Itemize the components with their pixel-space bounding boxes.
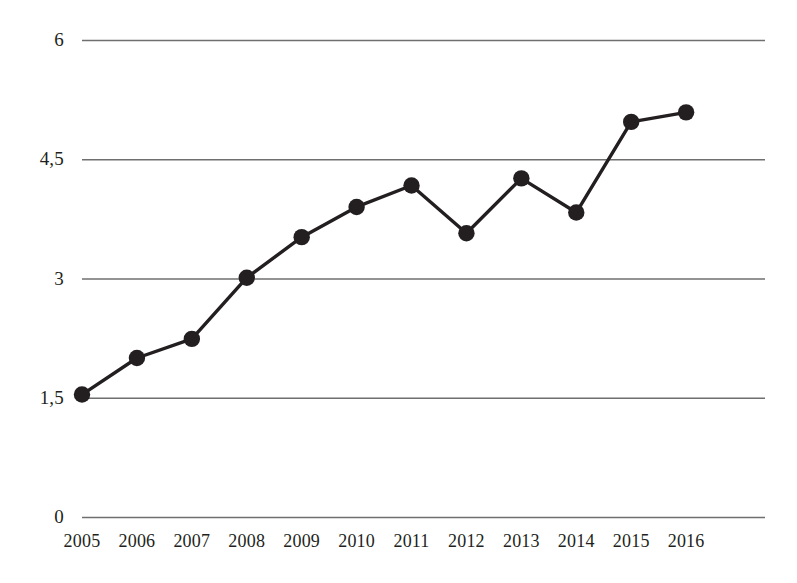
y-axis-tick-label: 4,5 [40, 149, 64, 168]
data-point-marker [568, 204, 584, 220]
data-point-marker [348, 199, 364, 215]
data-point-marker [678, 104, 694, 120]
x-axis-tick-label: 2016 [646, 532, 726, 550]
y-axis-tick-label: 3 [54, 269, 64, 288]
data-point-marker [458, 225, 474, 241]
data-point-marker [74, 386, 90, 402]
line-chart: 64,531,50 200520062007200820092010201120… [0, 0, 797, 583]
data-point-marker [513, 170, 529, 186]
data-point-marker [129, 350, 145, 366]
series-marker-group [74, 104, 695, 403]
data-point-marker [293, 229, 309, 245]
chart-plot-area [0, 0, 797, 583]
y-axis-tick-label: 1,5 [40, 388, 64, 407]
series-line [82, 112, 686, 394]
data-point-marker [623, 114, 639, 130]
data-point-marker [403, 177, 419, 193]
data-point-marker [239, 270, 255, 286]
gridline-group [82, 41, 765, 518]
data-point-marker [184, 331, 200, 347]
y-axis-tick-label: 6 [54, 30, 64, 49]
y-axis-tick-label: 0 [54, 507, 64, 526]
data-series-group [74, 104, 695, 403]
